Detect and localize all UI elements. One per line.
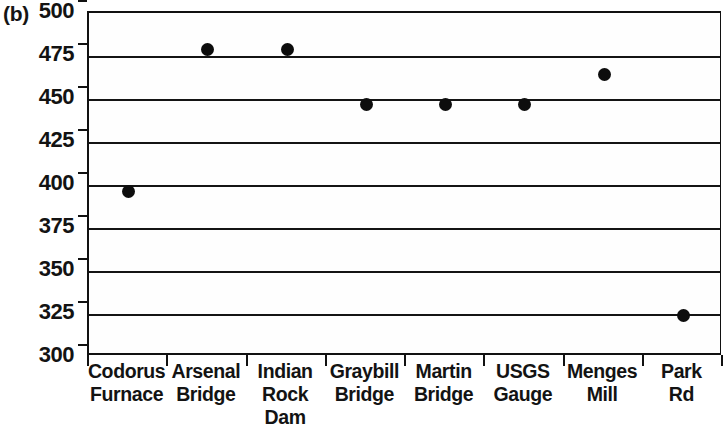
y-tick-450 [78,86,87,88]
y-tick-label: 300 [12,344,74,366]
data-point [201,43,214,56]
y-tick-425 [78,129,87,131]
y-tick-375 [78,215,87,217]
data-point [518,98,531,111]
data-point [281,43,294,56]
data-point [598,68,611,81]
x-axis-labels: CodorusFurnaceArsenalBridgeIndianRockDam… [87,360,721,437]
gridline-350 [89,271,720,273]
y-tick-label: 325 [12,301,74,323]
x-tick [483,355,485,366]
y-tick-label: 475 [12,43,74,65]
figure-panel-b: (b) CodorusFurnaceArsenalBridgeIndianRoc… [0,0,724,437]
gridline-475 [89,56,720,58]
x-tick [325,355,327,366]
data-point [439,98,452,111]
plot-area [87,11,721,355]
y-tick-325 [78,301,87,303]
x-tick [563,355,565,366]
x-axis-label: ParkRd [626,360,724,406]
x-tick [721,355,723,366]
data-point [360,98,373,111]
gridline-425 [89,142,720,144]
x-tick [404,355,406,366]
y-tick-label: 350 [12,258,74,280]
x-tick [166,355,168,366]
y-tick-300 [78,344,87,346]
x-tick [246,355,248,366]
gridline-400 [89,185,720,187]
y-tick-350 [78,258,87,260]
gridline-450 [89,99,720,101]
y-tick-label: 400 [12,172,74,194]
x-axis-label-line: Rd [626,383,724,406]
y-tick-label: 450 [12,86,74,108]
y-tick-label: 375 [12,215,74,237]
data-point [122,185,135,198]
y-tick-label: 425 [12,129,74,151]
y-tick-500 [78,0,87,2]
data-point [677,309,690,322]
x-axis-label-line: Dam [230,406,340,429]
x-tick [642,355,644,366]
y-tick-label: 500 [12,0,74,22]
x-tick [87,355,89,366]
y-tick-475 [78,43,87,45]
y-tick-400 [78,172,87,174]
gridline-325 [89,314,720,316]
gridline-375 [89,228,720,230]
